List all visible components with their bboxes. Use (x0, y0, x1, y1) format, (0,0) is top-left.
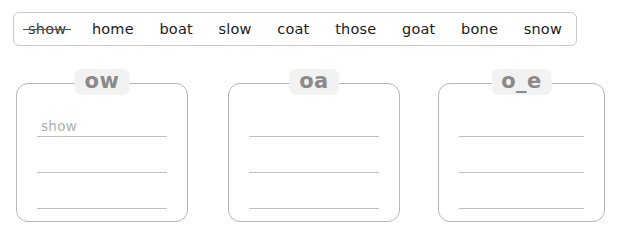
sort-box-o-e-line-2[interactable] (459, 155, 584, 173)
sort-box-ow-lines: show (37, 84, 167, 221)
sort-box-oa-line-3[interactable] (249, 191, 379, 209)
sort-box-o-e-line-1[interactable] (459, 119, 584, 137)
sort-box-ow[interactable]: ow show (16, 83, 188, 222)
sort-box-ow-line-2[interactable] (37, 155, 167, 173)
sort-box-oa-line-2[interactable] (249, 155, 379, 173)
sort-box-ow-line-3[interactable] (37, 191, 167, 209)
sort-boxes-area: ow show oa o_e (0, 0, 617, 240)
sort-box-oa-lines (249, 84, 379, 221)
sort-box-ow-line-1[interactable]: show (37, 119, 167, 137)
sort-box-oa-line-1[interactable] (249, 119, 379, 137)
sort-box-o-e-lines (459, 84, 584, 221)
sort-box-o-e-line-3[interactable] (459, 191, 584, 209)
sort-box-ow-answer-1: show (41, 118, 77, 134)
sort-box-o-e[interactable]: o_e (438, 83, 605, 222)
sort-box-oa[interactable]: oa (228, 83, 400, 222)
